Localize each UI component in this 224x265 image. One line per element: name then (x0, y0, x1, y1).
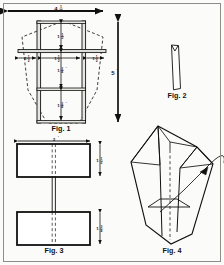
fig1-span-right-dimension: 1 1 2 (87, 55, 104, 63)
overall-width-dimension: 4 1 2 (8, 5, 103, 13)
fig2-stick-body (172, 45, 181, 90)
fig3-bottom-height-denominator: 4 (100, 229, 102, 233)
fig3-bottom-height-whole: 1 (96, 226, 99, 231)
diagram-sheet: 4 1 2 1 1 (0, 0, 224, 265)
fig1-top-segment-denominator: 2 (61, 36, 63, 40)
fig3-width-dimension: 3 ' (18, 136, 90, 142)
overall-height-dimension: 5 ' (111, 22, 118, 122)
fig1-mid-segment-whole: 1 (57, 68, 60, 73)
fig2-caption: Fig. 2 (168, 91, 187, 100)
fig1-span-right-denominator: 2 (96, 59, 98, 63)
fig1-mid-segment-denominator: 4 (61, 70, 63, 74)
fig4-caption: Fig. 4 (163, 246, 182, 255)
fig4-bridle-line (160, 156, 224, 212)
fig3-caption: Fig. 3 (45, 246, 64, 255)
fig1-caption: Fig. 1 (52, 124, 71, 133)
fig1-lower-rail (37, 88, 86, 91)
fig1-low-segment-dimension: 1 3 4 ' (57, 91, 67, 121)
fig1-low-segment-denominator: 4 (61, 105, 63, 109)
fig3-top-height-dimension: 1 1 2 (96, 145, 103, 176)
overall-height-value: 5 (111, 70, 115, 76)
figure-3: 3 ' 1 1 2 (17, 136, 103, 255)
fig4-bridle-arrowhead (200, 167, 208, 175)
diagram-canvas: 4 1 2 1 1 (0, 0, 224, 265)
fig1-right-stile (82, 21, 86, 123)
fig4-facet-upper-right (180, 147, 213, 168)
fig1-low-segment-whole: 1 (57, 103, 60, 108)
fig4-facet-upper-left (131, 126, 160, 165)
fig4-outer-body (131, 126, 213, 244)
overall-width-denominator: 2 (60, 9, 62, 13)
fig3-bottom-height-dimension: 1 3 4 (96, 213, 103, 244)
fig3-top-height-whole: 1 (96, 158, 99, 163)
fig1-bottom-rail (37, 120, 86, 123)
fig1-low-segment-unit: ' (66, 102, 67, 106)
fig3-top-panel (17, 144, 90, 177)
fig4-ridge-left (158, 126, 162, 236)
fig1-top-segment-whole: 1 (57, 34, 60, 39)
fig1-mid-segment-unit: ' (66, 67, 67, 71)
figure-2: Fig. 2 (168, 45, 187, 100)
fig1-left-stile (37, 21, 41, 123)
fig3-top-height-denominator: 2 (100, 161, 102, 165)
fig1-top-rail (37, 21, 86, 24)
fig3-width-unit: ' (58, 136, 59, 140)
figure-1: 1 1 2 1 3 4 ' 1 3 4 ' (18, 21, 106, 133)
fig1-cross-spar (18, 50, 106, 53)
fig4-ridge-right (177, 147, 197, 232)
figure-4: Fig. 4 (131, 126, 224, 255)
fig1-span-left-dimension: 1 1 2 (19, 55, 36, 63)
fig3-bottom-panel (17, 212, 90, 245)
fig4-cross-member (160, 199, 190, 207)
fig1-top-segment-dimension: 1 1 2 (57, 24, 64, 50)
fig1-span-left-denominator: 2 (28, 59, 30, 63)
fig1-span-center-denominator: 2 (58, 59, 60, 63)
